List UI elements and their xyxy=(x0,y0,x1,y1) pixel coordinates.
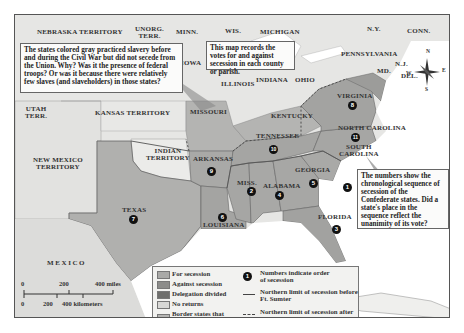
label-virginia: VIRGINIA xyxy=(337,93,372,100)
label-maryland: MD. xyxy=(377,68,391,75)
legend-label-numbers: Numbers indicate order of secession xyxy=(260,269,330,283)
label-ohio: OHIO xyxy=(295,77,315,84)
label-michigan: MICHIGAN xyxy=(260,29,300,36)
legend-solid-line-icon xyxy=(243,294,255,295)
legend-swatch-no-returns xyxy=(157,301,170,309)
secession-number-virginia: 8 xyxy=(348,101,357,110)
label-new-york: N.Y. xyxy=(367,26,381,33)
label-tennessee: TENNESSEE xyxy=(256,133,299,140)
legend-label-dashed-line: Northern limit of secession after Ft. Su… xyxy=(260,308,358,318)
legend-swatch-delegation-divided xyxy=(157,291,170,299)
scale-km-400: 400 kilometers xyxy=(62,300,103,307)
label-new-mexico-territory: NEW MEXICO TERRITORY xyxy=(33,157,83,172)
secession-number-tennessee: 10 xyxy=(269,145,278,154)
callout-gray-states: The states colored gray practiced slaver… xyxy=(20,43,183,93)
secession-number-north-carolina: 11 xyxy=(351,133,360,142)
legend-label-border-states: Border states that did not secede xyxy=(172,310,228,318)
label-mexico: MEXICO xyxy=(47,260,86,267)
secession-number-georgia: 5 xyxy=(309,179,318,188)
compass-east: E xyxy=(442,68,446,74)
secession-number-mississippi: 2 xyxy=(247,187,256,196)
legend-label-for-secession: For secession xyxy=(172,270,210,277)
legend-dashed-line-icon xyxy=(243,314,255,315)
label-alabama: ALABAMA xyxy=(263,183,301,190)
scale-miles-0: 0 xyxy=(21,280,24,287)
legend-swatch-for-secession xyxy=(157,271,170,279)
label-florida: FLORIDA xyxy=(318,214,352,221)
label-kentucky: KENTUCKY xyxy=(271,113,313,120)
scale-km-0: 0 xyxy=(21,300,24,307)
label-unorganized-territory: UNORG. TERR. xyxy=(135,26,164,41)
label-kansas-territory: KANSAS TERRITORY xyxy=(95,110,170,117)
secession-number-arkansas: 9 xyxy=(207,167,216,176)
label-georgia: GEORGIA xyxy=(295,167,330,174)
legend-swatch-border-states xyxy=(157,314,170,318)
label-arkansas: ARKANSAS xyxy=(193,156,233,163)
callout-votes-by-county: This map records the votes for and again… xyxy=(206,41,295,70)
map-legend: For secession Against secession Delegati… xyxy=(152,266,359,318)
scale-bar-line xyxy=(23,287,123,301)
legend-label-solid-line: Northern limit of secession before Ft. S… xyxy=(260,288,358,302)
label-connecticut: CONN. xyxy=(407,28,430,35)
label-pennsylvania: PENNSYLVANIA xyxy=(341,51,397,58)
secession-number-alabama: 4 xyxy=(275,191,284,200)
label-indiana: INDIANA xyxy=(256,77,288,84)
compass-north: N xyxy=(426,49,430,55)
legend-label-no-returns: No returns xyxy=(172,300,203,307)
label-minnesota: MINN. xyxy=(176,29,198,36)
label-texas: TEXAS xyxy=(122,207,146,214)
label-nebraska-territory: NEBRASKA TERRITORY xyxy=(37,29,123,36)
secession-number-texas: 7 xyxy=(129,215,138,224)
legend-label-delegation-divided: Delegation divided xyxy=(172,290,226,297)
compass-west: W xyxy=(406,71,412,77)
label-mississippi: MISS. xyxy=(237,180,257,187)
label-iowa: IOWA xyxy=(181,60,201,67)
secession-number-louisiana: 6 xyxy=(218,213,227,222)
map-frame: NEBRASKA TERRITORY UNORG. TERR. MINN. WI… xyxy=(14,14,450,318)
compass-south: S xyxy=(425,87,428,93)
label-new-jersey: N.J. xyxy=(395,61,408,68)
label-utah-territory: UTAH TERR. xyxy=(25,106,47,121)
secession-number-florida: 3 xyxy=(332,225,341,234)
legend-number-example-icon: 1 xyxy=(243,272,252,281)
label-illinois: ILLINOIS xyxy=(221,81,255,88)
compass-star-icon xyxy=(411,55,443,89)
scale-miles-200: 200 xyxy=(59,280,69,287)
scale-km-200: 200 xyxy=(43,300,53,307)
legend-swatch-against-secession xyxy=(157,281,170,289)
label-louisiana: LOUISIANA xyxy=(203,222,244,229)
callout-secession-sequence: The numbers show the chronological seque… xyxy=(357,169,449,229)
scale-miles-400: 400 miles xyxy=(95,280,121,287)
label-north-carolina: NORTH CAROLINA xyxy=(338,125,406,132)
label-indian-territory: INDIAN TERRITORY xyxy=(146,148,190,163)
legend-label-against-secession: Against secession xyxy=(172,280,222,287)
compass-rose: N E S W xyxy=(411,55,443,89)
label-wisconsin: WIS. xyxy=(225,28,241,35)
label-south-carolina: SOUTH CAROLINA xyxy=(339,144,379,159)
label-missouri: MISSOURI xyxy=(190,109,227,116)
secession-number-south-carolina: 1 xyxy=(343,183,352,192)
